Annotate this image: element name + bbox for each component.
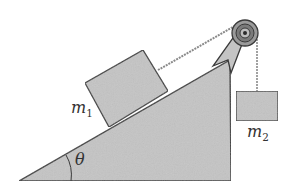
incline-pulley-diagram bbox=[0, 0, 303, 183]
label-m1-symbol: m bbox=[71, 98, 86, 117]
label-theta: θ bbox=[75, 152, 85, 168]
block-m2 bbox=[236, 91, 278, 121]
label-m2-subscript: 2 bbox=[262, 131, 269, 143]
label-m2-symbol: m bbox=[247, 122, 262, 141]
label-m1-subscript: 1 bbox=[86, 107, 93, 119]
label-m1: m1 bbox=[71, 100, 93, 118]
label-m2: m2 bbox=[247, 124, 269, 142]
pulley-icon bbox=[232, 20, 258, 46]
